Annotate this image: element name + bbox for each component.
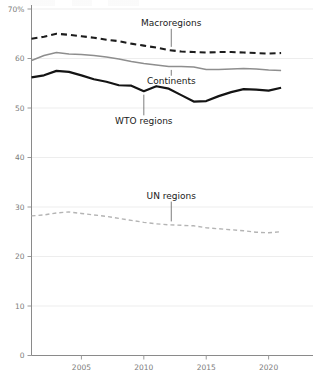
y-tick-label-20: 20 — [15, 252, 25, 261]
series-label-macroregions: Macroregions — [141, 18, 202, 28]
series-line-un-regions — [32, 212, 282, 233]
chart-container: 010203040506070% 2005201020152020 Macror… — [0, 0, 321, 387]
series-label-wto-regions: WTO regions — [115, 116, 173, 126]
series-annotation-labels: MacroregionsContinentsWTO regionsUN regi… — [115, 18, 202, 201]
y-tick-label-0: 0 — [20, 351, 25, 360]
line-chart: 010203040506070% 2005201020152020 Macror… — [0, 0, 321, 387]
x-tick-marks — [81, 356, 268, 360]
y-tick-marks — [28, 9, 32, 356]
x-tick-label-2015: 2015 — [197, 363, 216, 372]
x-tick-label-2010: 2010 — [134, 363, 153, 372]
series-line-macroregions — [32, 34, 282, 54]
y-tick-label-30: 30 — [15, 203, 25, 212]
y-tick-label-40: 40 — [15, 153, 25, 162]
series-line-continents — [32, 53, 282, 71]
x-tick-label-2020: 2020 — [259, 363, 278, 372]
series-label-continents: Continents — [147, 76, 196, 86]
y-tick-label-70: 70% — [8, 5, 25, 14]
top-edge-artifact — [30, 0, 170, 6]
series-label-un-regions: UN regions — [147, 191, 197, 201]
x-tick-label-2005: 2005 — [72, 363, 91, 372]
x-axis-tick-labels: 2005201020152020 — [72, 363, 279, 372]
y-axis-tick-labels: 010203040506070% — [8, 5, 25, 361]
y-tick-label-50: 50 — [15, 104, 25, 113]
series-lines — [32, 34, 282, 233]
y-tick-label-10: 10 — [15, 302, 25, 311]
y-tick-label-60: 60 — [15, 54, 25, 63]
